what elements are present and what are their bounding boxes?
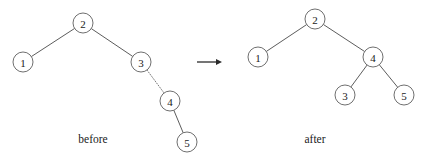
node-label-b4: 4	[167, 96, 173, 108]
tree-edge-b4-b5	[174, 110, 183, 133]
node-label-a2: 2	[312, 14, 318, 26]
tree-node-a5: 5	[394, 85, 414, 105]
figure-canvas: 1234512435 beforeafter	[0, 0, 427, 162]
tree-node-a2: 2	[305, 9, 325, 29]
tree-node-a3: 3	[335, 85, 355, 105]
node-label-a4: 4	[370, 52, 376, 64]
binary-tree-rotation-figure: 1234512435 beforeafter	[0, 0, 427, 162]
tree-node-b4: 4	[160, 91, 180, 111]
nodes-layer: 1234512435	[13, 9, 414, 152]
node-label-a3: 3	[342, 90, 348, 102]
node-label-b1: 1	[20, 57, 26, 69]
tree-node-b5: 5	[177, 132, 197, 152]
caption-after: after	[304, 133, 325, 145]
caption-before: before	[78, 133, 107, 145]
edges-layer	[31, 24, 397, 132]
node-label-a1: 1	[255, 52, 261, 64]
node-label-b2: 2	[80, 18, 86, 30]
tree-edge-b2-b3	[91, 29, 132, 57]
transition-arrow	[197, 59, 222, 65]
tree-edge-b2-b1	[31, 28, 74, 56]
node-label-a5: 5	[401, 90, 407, 102]
tree-node-a4: 4	[363, 47, 383, 67]
transition-arrow-head	[216, 59, 222, 65]
tree-node-b2: 2	[73, 13, 93, 33]
tree-node-a1: 1	[248, 47, 268, 67]
tree-node-b3: 3	[131, 52, 151, 72]
tree-edge-a4-a5	[379, 65, 397, 88]
captions-layer: beforeafter	[78, 133, 325, 145]
node-label-b5: 5	[184, 137, 190, 149]
tree-edge-a2-a1	[266, 25, 306, 52]
tree-edge-b3-b4	[147, 70, 164, 93]
node-label-b3: 3	[138, 57, 144, 69]
tree-edge-a2-a4	[323, 24, 364, 51]
tree-node-b1: 1	[13, 52, 33, 72]
tree-edge-a4-a3	[351, 65, 367, 87]
